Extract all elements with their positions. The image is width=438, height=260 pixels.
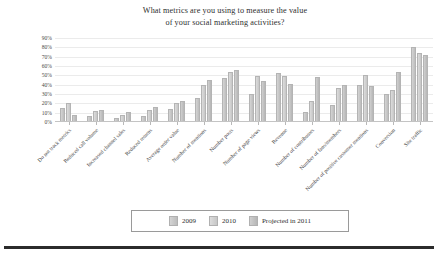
legend-item-2009: 2009	[169, 216, 196, 226]
x-axis-category-labels: Do not track metricsReduced call volumeI…	[55, 126, 433, 198]
legend-label: Projected in 2011	[262, 217, 311, 225]
x-axis-tick	[420, 122, 421, 125]
bar-group	[406, 38, 433, 122]
x-axis-tick	[339, 122, 340, 125]
x-axis-tick	[69, 122, 70, 125]
bar[interactable]	[282, 76, 287, 122]
bar[interactable]	[276, 73, 281, 122]
bar[interactable]	[330, 105, 335, 122]
bottom-divider	[4, 246, 434, 249]
bar[interactable]	[195, 98, 200, 122]
bar[interactable]	[207, 80, 212, 122]
x-axis-tick	[285, 122, 286, 125]
bar[interactable]	[261, 81, 266, 122]
x-axis-category-label: Revenue	[270, 127, 288, 145]
y-axis-tick-label: 60%	[42, 63, 52, 69]
bar-group	[109, 38, 136, 122]
legend-swatch-icon	[249, 216, 258, 226]
x-axis-category-label: Number posts	[208, 127, 234, 153]
x-axis-line	[55, 121, 433, 122]
y-axis-tick-label: 0%	[45, 119, 52, 125]
legend-item-projected-2011: Projected in 2011	[249, 216, 311, 226]
x-axis-tick	[258, 122, 259, 125]
bar[interactable]	[309, 101, 314, 122]
x-axis-category-label: Site traffic	[402, 127, 423, 148]
x-axis-tick	[312, 122, 313, 125]
bar[interactable]	[342, 85, 347, 122]
bar-group	[352, 38, 379, 122]
bar-groups	[55, 38, 433, 122]
bar-group	[244, 38, 271, 122]
legend-swatch-icon	[169, 216, 178, 226]
chart-title-line-2: of your social marketing activities?	[60, 17, 390, 29]
y-axis-tick-label: 40%	[42, 82, 52, 88]
y-axis-tick-label: 80%	[42, 44, 52, 50]
x-axis-tick	[123, 122, 124, 125]
legend-swatch-icon	[209, 216, 218, 226]
y-axis-tick-label: 70%	[42, 54, 52, 60]
bar-group	[82, 38, 109, 122]
x-axis-category-label: Conversion	[374, 127, 396, 149]
legend-item-2010: 2010	[209, 216, 236, 226]
bar-group	[190, 38, 217, 122]
legend-label: 2009	[182, 217, 196, 225]
bar[interactable]	[228, 72, 233, 122]
bar[interactable]	[363, 75, 368, 122]
bar[interactable]	[201, 85, 206, 122]
x-axis-category-label: Reduced returns	[123, 127, 153, 157]
chart-legend: 2009 2010 Projected in 2011	[131, 210, 349, 232]
bar[interactable]	[180, 101, 185, 122]
y-axis-tick-label: 20%	[42, 100, 52, 106]
bar[interactable]	[255, 76, 260, 122]
y-axis-tick-label: 50%	[42, 72, 52, 78]
bar[interactable]	[234, 70, 239, 122]
y-axis-tick-label: 30%	[42, 91, 52, 97]
chart-title: What metrics are you using to measure th…	[60, 5, 390, 28]
bar[interactable]	[390, 90, 395, 122]
bar[interactable]	[384, 94, 389, 122]
bar-group	[136, 38, 163, 122]
bar-group	[271, 38, 298, 122]
bar[interactable]	[417, 53, 422, 122]
bar[interactable]	[60, 108, 65, 122]
y-axis-tick-label: 10%	[42, 110, 52, 116]
bar-group	[217, 38, 244, 122]
bar[interactable]	[222, 78, 227, 122]
bar-group	[163, 38, 190, 122]
chart-container: What metrics are you using to measure th…	[0, 0, 438, 260]
bar[interactable]	[153, 107, 158, 122]
bar[interactable]	[369, 86, 374, 122]
bar-group	[55, 38, 82, 122]
x-axis-tick	[366, 122, 367, 125]
bar[interactable]	[315, 77, 320, 122]
legend-label: 2010	[222, 217, 236, 225]
bar-group	[298, 38, 325, 122]
bar-group	[379, 38, 406, 122]
x-axis-tick	[204, 122, 205, 125]
x-axis-tick	[393, 122, 394, 125]
bar[interactable]	[357, 85, 362, 122]
bar[interactable]	[336, 88, 341, 122]
y-axis-tick-label: 90%	[42, 35, 52, 41]
x-axis-tick	[150, 122, 151, 125]
bar[interactable]	[411, 47, 416, 122]
y-axis-labels: 90%80%70%60%50%40%30%20%10%0%	[28, 36, 52, 122]
chart-title-line-1: What metrics are you using to measure th…	[143, 6, 307, 15]
x-axis-tick	[231, 122, 232, 125]
plot-area	[55, 38, 433, 122]
bar[interactable]	[249, 94, 254, 122]
bar[interactable]	[423, 55, 428, 122]
bar[interactable]	[288, 84, 293, 122]
plot-area-wrapper: 90%80%70%60%50%40%30%20%10%0%	[0, 36, 438, 126]
bar[interactable]	[66, 103, 71, 122]
x-axis-tick	[96, 122, 97, 125]
bar-group	[325, 38, 352, 122]
x-axis-tick	[177, 122, 178, 125]
bar[interactable]	[174, 103, 179, 122]
bar[interactable]	[396, 72, 401, 122]
